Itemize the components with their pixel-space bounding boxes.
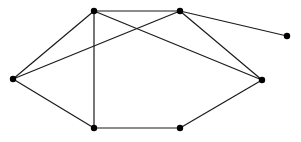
edge-G-E xyxy=(180,80,262,128)
node-A xyxy=(91,8,97,14)
graph-diagram xyxy=(0,0,301,142)
edge-A-D xyxy=(13,11,94,79)
node-F xyxy=(91,125,97,131)
edge-B-E xyxy=(180,11,262,80)
edge-B-D xyxy=(13,11,180,79)
node-B xyxy=(177,8,183,14)
edge-D-F xyxy=(13,79,94,128)
node-C xyxy=(284,33,290,39)
node-G xyxy=(177,125,183,131)
edges-group xyxy=(13,11,287,128)
edge-B-C xyxy=(180,11,287,36)
node-D xyxy=(10,76,16,82)
edge-A-E xyxy=(94,11,262,80)
node-E xyxy=(259,77,265,83)
